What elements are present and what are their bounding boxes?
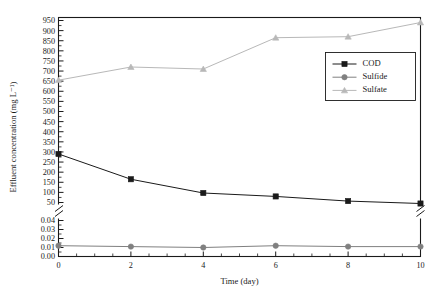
data-point-triangle — [417, 20, 423, 25]
y-tick-label: 0.02 — [41, 234, 55, 243]
series-cod — [56, 151, 423, 206]
data-point-circle — [418, 244, 423, 249]
legend-label-sulfate: Sulfate — [363, 84, 388, 94]
y-tick-label: 750 — [43, 57, 55, 66]
data-point-circle — [342, 75, 347, 80]
data-point-square — [56, 151, 61, 156]
y-tick-label: 450 — [43, 118, 55, 127]
y-tick-label: 700 — [43, 67, 55, 76]
y-tick-label: 400 — [43, 128, 55, 137]
y-tick-label: 0.00 — [41, 252, 55, 261]
y-tick-label: 300 — [43, 148, 55, 157]
chart-legend: CODSulfideSulfate — [326, 53, 416, 101]
y-tick-label: 900 — [43, 27, 55, 36]
x-axis-title: Time (day) — [220, 276, 258, 286]
y-tick-label: 500 — [43, 107, 55, 116]
y-tick-label: 650 — [43, 77, 55, 86]
legend-label-sulfide: Sulfide — [363, 71, 388, 81]
y-tick-label: 50 — [47, 198, 55, 207]
data-point-square — [201, 190, 206, 195]
y-tick-label: 600 — [43, 87, 55, 96]
y-tick-label: 150 — [43, 178, 55, 187]
series-line-cod — [59, 154, 421, 204]
y-tick-label: 800 — [43, 47, 55, 56]
data-point-square — [342, 61, 347, 66]
axis-break-marker-right — [417, 205, 425, 219]
x-tick-label: 8 — [346, 261, 350, 270]
axis-break-marker — [55, 205, 63, 219]
data-point-square — [128, 177, 133, 182]
x-tick-label: 6 — [274, 261, 278, 270]
axis-break-gap — [56, 205, 61, 219]
y-tick-label: 350 — [43, 138, 55, 147]
y-tick-label: 0.01 — [41, 243, 55, 252]
data-point-circle — [345, 244, 350, 249]
chart-canvas: 5010015020025030035040045050055060065070… — [0, 0, 440, 296]
data-point-square — [273, 194, 278, 199]
x-tick-label: 0 — [56, 261, 60, 270]
series-line-sulfide — [59, 246, 421, 248]
y-tick-label: 100 — [43, 188, 55, 197]
x-tick-label: 2 — [129, 261, 133, 270]
data-point-square — [418, 201, 423, 206]
chart-figure: 5010015020025030035040045050055060065070… — [0, 0, 440, 296]
data-point-square — [346, 198, 351, 203]
data-point-circle — [273, 243, 278, 248]
y-tick-label: 850 — [43, 37, 55, 46]
legend-label-cod: COD — [363, 58, 381, 68]
series-sulfide — [56, 243, 423, 250]
x-tick-label: 10 — [416, 261, 424, 270]
x-tick-label: 4 — [201, 261, 205, 270]
y-tick-label: 550 — [43, 97, 55, 106]
y-tick-label: 0.04 — [41, 216, 55, 225]
data-point-circle — [201, 245, 206, 250]
y-tick-label: 200 — [43, 168, 55, 177]
y-tick-label: 950 — [43, 16, 55, 25]
data-point-circle — [128, 244, 133, 249]
y-tick-label: 0.03 — [41, 225, 55, 234]
y-axis-title: Effluent concentration (mg L⁻¹) — [8, 81, 18, 192]
y-tick-label: 250 — [43, 158, 55, 167]
data-point-circle — [56, 243, 61, 248]
